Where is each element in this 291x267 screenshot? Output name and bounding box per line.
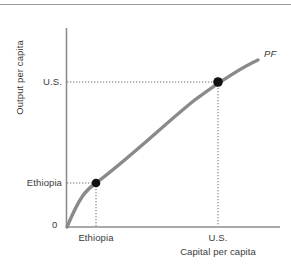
- y-tick-label-us: U.S.: [0, 76, 62, 87]
- x-tick-label-us: U.S.: [190, 232, 246, 243]
- curve-annotation-pf: PF: [264, 48, 276, 59]
- chart-canvas: [0, 0, 291, 267]
- data-point-us: [213, 77, 223, 87]
- data-point-ethiopia: [92, 179, 101, 188]
- y-tick-label-ethiopia: Ethiopia: [0, 177, 62, 188]
- production-function-figure: Output per capita U.S. Ethiopia 0 Ethiop…: [0, 0, 291, 267]
- origin-label: 0: [52, 219, 57, 230]
- x-tick-label-ethiopia: Ethiopia: [67, 232, 125, 243]
- x-axis-title: Capital per capita: [165, 246, 271, 257]
